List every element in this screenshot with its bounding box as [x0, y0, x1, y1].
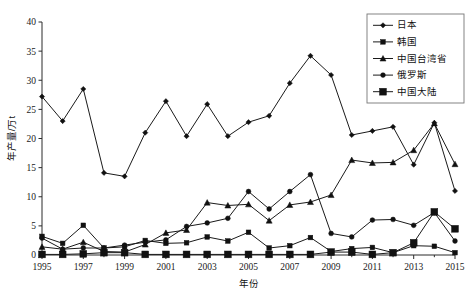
x-tick-label: 2001	[156, 262, 175, 272]
data-point-marker	[328, 249, 335, 256]
data-point-marker	[267, 207, 272, 212]
x-tick-label: 2011	[363, 262, 382, 272]
chart-container: 0510152025303540199519971999200120032005…	[0, 0, 471, 298]
data-point-marker	[287, 189, 292, 194]
data-point-marker	[81, 223, 86, 228]
data-point-marker	[288, 243, 293, 248]
y-tick-label: 35	[27, 47, 37, 57]
data-point-marker	[122, 174, 127, 179]
data-point-marker	[432, 244, 437, 249]
data-point-marker	[80, 250, 87, 257]
data-point-marker	[59, 251, 66, 258]
y-tick-label: 25	[27, 105, 37, 115]
data-point-marker	[453, 239, 458, 244]
x-axis-title: 年份	[239, 278, 259, 289]
data-point-marker	[205, 102, 210, 107]
data-point-marker	[390, 124, 395, 129]
data-point-marker	[349, 132, 354, 137]
y-tick-label: 40	[27, 17, 37, 27]
data-point-marker	[381, 73, 386, 78]
y-tick-label: 5	[31, 221, 36, 231]
y-tick-label: 0	[31, 250, 36, 260]
data-point-marker	[205, 235, 210, 240]
legend-label: 中国台湾省	[397, 53, 447, 64]
data-point-marker	[245, 251, 252, 258]
data-point-marker	[163, 99, 168, 104]
data-point-marker	[122, 243, 127, 248]
data-point-marker	[390, 249, 397, 256]
data-point-marker	[40, 236, 45, 241]
data-point-marker	[164, 237, 169, 242]
data-point-marker	[101, 249, 108, 256]
y-tick-label: 30	[27, 76, 37, 86]
data-point-marker	[452, 225, 459, 232]
data-point-marker	[410, 239, 417, 246]
data-point-marker	[81, 86, 86, 91]
data-point-marker	[246, 189, 251, 194]
x-tick-label: 2005	[239, 262, 258, 272]
data-point-marker	[411, 162, 416, 167]
data-point-marker	[81, 246, 86, 251]
series-4	[40, 172, 458, 251]
y-axis-title: 年产量/万t	[6, 116, 17, 162]
data-point-marker	[204, 251, 211, 258]
data-point-marker	[226, 239, 231, 244]
data-point-marker	[143, 240, 148, 245]
data-point-marker	[381, 40, 386, 45]
x-tick-label: 2003	[198, 262, 217, 272]
data-point-marker	[308, 235, 313, 240]
data-point-marker	[452, 161, 458, 167]
data-point-marker	[349, 157, 355, 163]
data-point-marker	[308, 172, 313, 177]
x-tick-label: 1997	[74, 262, 93, 272]
data-point-marker	[370, 218, 375, 223]
data-point-marker	[39, 251, 46, 258]
data-point-marker	[60, 241, 65, 246]
data-point-marker	[370, 245, 375, 250]
legend-label: 俄罗斯	[397, 69, 427, 80]
data-point-marker	[246, 230, 251, 235]
data-point-marker	[183, 251, 190, 258]
data-point-marker	[348, 249, 355, 256]
data-point-marker	[391, 217, 396, 222]
y-tick-label: 20	[27, 134, 37, 144]
x-tick-label: 1995	[33, 262, 52, 272]
data-point-marker	[225, 216, 230, 221]
series-line	[42, 175, 455, 250]
data-point-marker	[307, 251, 314, 258]
data-point-marker	[184, 240, 189, 245]
data-point-marker	[267, 113, 272, 118]
legend-label: 韩国	[397, 36, 417, 47]
line-chart: 0510152025303540199519971999200120032005…	[0, 0, 471, 298]
data-point-marker	[286, 251, 293, 258]
data-point-marker	[205, 221, 210, 226]
data-point-marker	[452, 188, 457, 193]
y-tick-label: 10	[27, 192, 37, 202]
data-point-marker	[267, 246, 272, 251]
legend-label: 中国大陆	[397, 86, 437, 97]
data-point-marker	[80, 239, 86, 245]
data-point-marker	[329, 231, 334, 236]
data-point-marker	[328, 192, 334, 198]
data-point-marker	[380, 88, 387, 95]
data-point-marker	[204, 200, 210, 206]
data-point-marker	[431, 208, 438, 215]
data-point-marker	[224, 251, 231, 258]
data-point-marker	[184, 134, 189, 139]
legend: 日本韩国中国台湾省俄罗斯中国大陆	[367, 14, 464, 103]
data-point-marker	[349, 235, 354, 240]
x-tick-label: 2009	[322, 262, 341, 272]
data-point-marker	[142, 251, 149, 258]
data-point-marker	[266, 251, 273, 258]
data-point-marker	[163, 251, 170, 258]
legend-label: 日本	[397, 19, 417, 30]
data-point-marker	[370, 128, 375, 133]
data-point-marker	[121, 249, 128, 256]
x-tick-label: 2007	[280, 262, 299, 272]
x-tick-label: 2013	[404, 262, 423, 272]
data-point-marker	[143, 130, 148, 135]
y-tick-label: 15	[27, 163, 37, 173]
data-point-marker	[453, 250, 458, 255]
data-point-marker	[101, 170, 106, 175]
data-point-marker	[411, 223, 416, 228]
